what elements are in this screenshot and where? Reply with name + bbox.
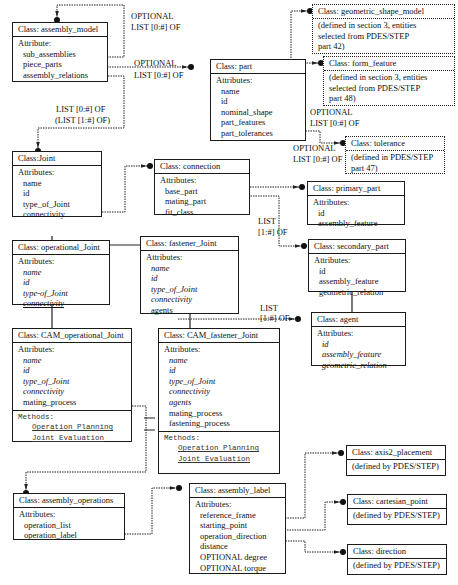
description-line: selected from PDES/STEP bbox=[318, 31, 450, 42]
class-secondary-part[interactable]: Class: secondary_part Attributes: id ass… bbox=[308, 239, 406, 292]
attribute: connectivity bbox=[18, 386, 127, 397]
label-tolerances-list: LIST [0:#] OF bbox=[293, 154, 342, 164]
class-geometric-shape-model[interactable]: Class: geometric_shape_model (defined in… bbox=[312, 4, 455, 54]
attribute: id bbox=[317, 339, 401, 350]
attribute: sub_assemblies bbox=[18, 49, 103, 60]
section-label: Attributes: bbox=[216, 75, 301, 86]
class-title: Class: assembly_model bbox=[13, 23, 107, 37]
description-line: (defined in section 3, entities bbox=[318, 20, 450, 31]
attribute: geometric_relation bbox=[317, 360, 401, 371]
method-link-operation-planning[interactable]: Operation Planning bbox=[18, 422, 127, 433]
class-primary-part[interactable]: Class: primary_part Attributes: id assem… bbox=[307, 181, 405, 225]
attribute: assembly_feature bbox=[314, 276, 401, 287]
class-joint[interactable]: Class:Joint Attributes: name id type_of_… bbox=[12, 151, 102, 217]
attribute: operation_direction bbox=[195, 531, 281, 542]
class-title: Class: agent bbox=[312, 313, 405, 327]
attribute: mating_part bbox=[160, 196, 245, 207]
class-assembly-operations[interactable]: Class: assembly_operations Attributes: o… bbox=[13, 493, 125, 540]
attribute: geometric_relation bbox=[314, 287, 401, 298]
description-line: (defined in PDES/STEP bbox=[351, 152, 440, 163]
label-tolerances-optional: OPTIONAL bbox=[293, 143, 336, 153]
class-part[interactable]: Class: part Attributes: name id nominal_… bbox=[210, 59, 306, 141]
class-title: Class: tolerance bbox=[346, 137, 444, 151]
attribute: type_of_Joint bbox=[164, 376, 275, 387]
class-axis2-placement[interactable]: Class: axis2_placement (defined by PDES/… bbox=[346, 445, 446, 476]
attribute: agents bbox=[164, 397, 275, 408]
attribute: name bbox=[18, 355, 127, 366]
description-line: part 47) bbox=[351, 163, 440, 174]
description-line: (defined by PDES/STEP) bbox=[353, 560, 442, 571]
class-title: Class: axis2_placement bbox=[347, 446, 445, 460]
class-title: Class: part bbox=[211, 60, 305, 74]
attribute: id bbox=[18, 277, 105, 288]
class-connection[interactable]: Class: connection Attributes: base_part … bbox=[154, 159, 250, 215]
label-piece-parts-list: LIST [0:#] OF bbox=[134, 70, 183, 80]
class-agent[interactable]: Class: agent Attributes: id assembly_fea… bbox=[311, 312, 406, 366]
class-cartesian-point[interactable]: Class: cartesian_point (defined by PDES/… bbox=[347, 494, 447, 525]
attribute: assembly_feature bbox=[313, 218, 400, 229]
attribute: id bbox=[146, 273, 234, 284]
attribute: name bbox=[216, 86, 301, 97]
section-label: Attributes: bbox=[317, 328, 401, 339]
method-link-operation-planning[interactable]: Operation Planning bbox=[164, 443, 275, 454]
label-sub-assemblies-list: LIST [0:#] OF bbox=[131, 22, 180, 32]
description-line: selected from PDES/STEP bbox=[329, 83, 450, 94]
label-sub-assemblies-optional: OPTIONAL bbox=[131, 11, 174, 21]
methods-label: Methods: bbox=[18, 412, 127, 423]
description-line: (defined by PDES/STEP) bbox=[352, 461, 441, 472]
description-line: part 42) bbox=[318, 41, 450, 52]
label-features-optional: OPTIONAL bbox=[310, 107, 353, 117]
label-mating-list: LIST bbox=[258, 216, 276, 226]
attribute: part_features bbox=[216, 117, 301, 128]
label-features-list: LIST [0:#] OF bbox=[310, 118, 359, 128]
attribute: name bbox=[18, 267, 105, 278]
label-relations-list: LIST [0:#] OF bbox=[56, 104, 105, 114]
section-label: Attributes: bbox=[19, 509, 120, 520]
class-title: Class: form_feature bbox=[324, 57, 454, 71]
class-cam-operational-joint[interactable]: Class: CAM_operational_Joint Attributes:… bbox=[12, 328, 132, 442]
class-assembly-model[interactable]: Class: assembly_model Attribute: sub_ass… bbox=[12, 22, 108, 82]
class-cam-fastener-joint[interactable]: Class: CAM_fastener_Joint Attributes: na… bbox=[158, 328, 280, 474]
attribute: connectivity bbox=[164, 386, 275, 397]
section-label: Attributes: bbox=[314, 255, 401, 266]
class-title: Class: secondary_part bbox=[309, 240, 405, 254]
class-assembly-label[interactable]: Class: assembly_label Attributes: refere… bbox=[189, 483, 286, 574]
attribute: piece_parts bbox=[18, 59, 103, 70]
attribute: type-of_Joint bbox=[18, 288, 105, 299]
method-link-joint-evaluation[interactable]: Joint Evaluation bbox=[18, 433, 127, 444]
section-label: Attributes: bbox=[164, 344, 275, 355]
label-mating-range: [1:#] OF bbox=[258, 227, 288, 237]
attribute: base_part bbox=[160, 186, 245, 197]
class-direction[interactable]: Class: direction (defined by PDES/STEP) bbox=[347, 544, 447, 575]
attribute: fit_class bbox=[160, 207, 245, 218]
class-title: Class: operational_Joint bbox=[13, 241, 109, 255]
class-operational-joint[interactable]: Class: operational_Joint Attributes: nam… bbox=[12, 240, 110, 305]
class-title: Class: connection bbox=[155, 160, 249, 174]
class-fastener-joint[interactable]: Class: fastener_Joint Attributes: name i… bbox=[140, 236, 239, 314]
class-title: Class: geometric_shape_model bbox=[313, 5, 454, 19]
attribute: name bbox=[146, 263, 234, 274]
class-title: Class: cartesian_point bbox=[348, 495, 446, 509]
attribute: distance bbox=[195, 541, 281, 552]
attribute: assembly_relations bbox=[18, 70, 103, 81]
class-title: Class: fastener_Joint bbox=[141, 237, 238, 251]
section-label: Attributes: bbox=[160, 175, 245, 186]
attribute: OPTIONAL degree bbox=[195, 552, 281, 563]
attribute: type_of_Joint bbox=[18, 199, 97, 210]
description-line: (defined by PDES/STEP) bbox=[353, 510, 442, 521]
class-title: Class: CAM_operational_Joint bbox=[13, 329, 131, 343]
methods-section: Methods: Operation Planning Joint Evalua… bbox=[159, 431, 279, 467]
attribute: name bbox=[18, 178, 97, 189]
attribute: reference_frame bbox=[195, 510, 281, 521]
class-tolerance[interactable]: Class: tolerance (defined in PDES/STEP p… bbox=[345, 136, 445, 174]
attribute: OPTIONAL torque bbox=[195, 563, 281, 574]
class-title: Class: CAM_fastener_Joint bbox=[159, 329, 279, 343]
class-form-feature[interactable]: Class: form_feature (defined in section … bbox=[323, 56, 455, 106]
class-title: Class: direction bbox=[348, 545, 446, 559]
method-link-joint-evaluation[interactable]: Joint Evaluation bbox=[164, 454, 275, 465]
attribute: agents bbox=[146, 305, 234, 316]
attribute: id bbox=[164, 365, 275, 376]
attribute: type_of_Joint bbox=[146, 284, 234, 295]
class-title: Class: primary_part bbox=[308, 182, 404, 196]
class-title: Class:Joint bbox=[13, 152, 101, 166]
